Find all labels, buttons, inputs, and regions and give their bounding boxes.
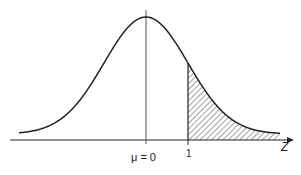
normal-distribution-diagram: μ = 0 1 Z — [0, 0, 301, 175]
z1-tick-label: 1 — [186, 148, 192, 159]
shaded-tail-area — [188, 63, 280, 140]
mean-label: μ = 0 — [131, 151, 156, 163]
normal-curve — [19, 17, 280, 133]
diagram-canvas — [0, 0, 301, 175]
z-axis-label: Z — [281, 140, 288, 154]
